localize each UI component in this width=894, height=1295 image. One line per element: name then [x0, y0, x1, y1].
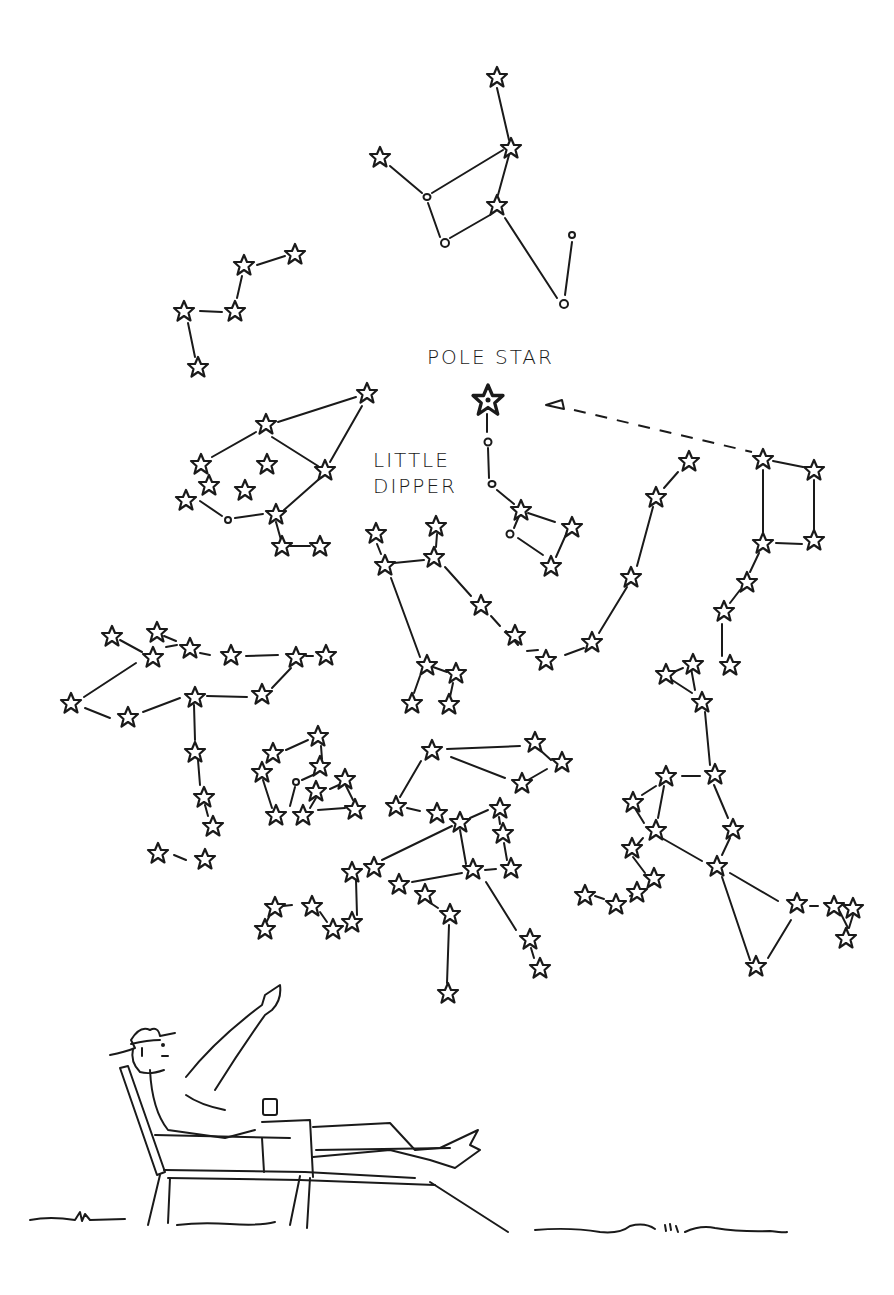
little-dipper-label-line2: Dipper — [373, 473, 457, 499]
constellation-center-bottom — [255, 732, 572, 1003]
little-dipper-label: Little Dipper — [373, 447, 457, 499]
ground — [30, 1212, 787, 1232]
constellation-top — [370, 67, 575, 308]
constellation-small-cluster — [252, 726, 365, 825]
constellation-kite — [176, 383, 377, 556]
constellation-little-dipper — [473, 385, 582, 576]
pole-star-label: Pole Star — [427, 344, 554, 370]
constellation-right — [575, 654, 863, 976]
constellation-illustration — [0, 0, 894, 1295]
little-dipper-label-line1: Little — [373, 447, 457, 473]
pole-star-pointer — [546, 400, 752, 452]
constellation-left-zigzag — [174, 244, 305, 377]
constellation-big-dipper — [714, 449, 824, 675]
man-in-lounge-chair — [110, 985, 508, 1232]
